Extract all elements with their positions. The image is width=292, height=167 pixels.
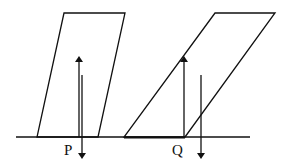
- left-parallelogram: [37, 13, 125, 137]
- right-parallelogram: [124, 13, 275, 137]
- label-q: Q: [172, 142, 183, 158]
- force-diagram: P Q: [0, 0, 292, 167]
- label-p: P: [64, 142, 72, 158]
